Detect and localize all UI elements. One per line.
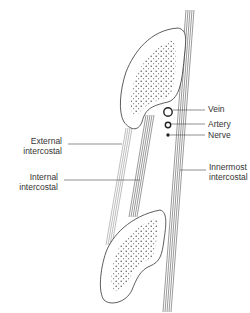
label-nerve: Nerve	[208, 130, 231, 140]
label-internal-intercostal: Internal intercostal	[16, 172, 58, 192]
intercostal-diagram	[0, 0, 250, 313]
lower-rib	[100, 210, 165, 303]
internal-intercostal-muscle	[129, 115, 154, 217]
label-internal-line2: intercostal	[16, 182, 58, 192]
label-artery: Artery	[208, 119, 231, 129]
label-innermost-line2: intercostal	[209, 172, 248, 182]
vein-icon	[164, 108, 172, 116]
label-external-line2: intercostal	[20, 146, 62, 156]
label-external-intercostal: External intercostal	[20, 136, 62, 156]
nerve-icon	[166, 133, 169, 136]
upper-rib	[120, 28, 185, 129]
label-vein: Vein	[208, 104, 225, 114]
label-internal-line1: Internal	[16, 172, 58, 182]
label-innermost-line1: Innermost	[209, 162, 248, 172]
label-innermost-intercostal: Innermost intercostal	[209, 162, 248, 182]
label-external-line1: External	[20, 136, 62, 146]
artery-icon	[165, 122, 170, 127]
